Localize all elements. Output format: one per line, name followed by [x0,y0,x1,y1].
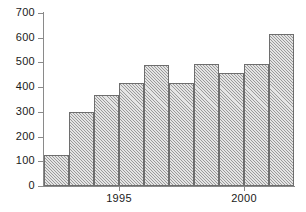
y-axis-tick-label: 600 [0,32,35,43]
y-axis-tick-label: 300 [0,106,35,117]
y-axis-tick [38,137,43,138]
y-axis-tick-label: 500 [0,56,35,67]
x-axis-line [43,186,295,187]
x-axis-tick-label: 2000 [214,192,274,204]
y-axis-tick [38,13,43,14]
bar [69,112,94,186]
bar [44,155,69,186]
y-axis-tick-label: 0 [0,180,35,191]
y-axis-tick-label: 400 [0,81,35,92]
bar [169,83,194,186]
x-axis-tick [119,187,120,191]
y-axis-tick-label: 100 [0,155,35,166]
bar [219,73,244,186]
bar [94,95,119,186]
y-axis-tick [38,112,43,113]
x-axis-tick [244,187,245,191]
bar-chart: 7006005004003002001000 19952000 [0,0,306,212]
bar [269,34,294,186]
y-axis-tick-label: 200 [0,131,35,142]
y-axis-tick [38,87,43,88]
bar-series [44,13,294,186]
bar [244,64,269,186]
y-axis-tick [38,62,43,63]
bar [144,65,169,186]
y-axis-tick [38,161,43,162]
y-axis-tick [38,38,43,39]
x-axis-tick-label: 1995 [89,192,149,204]
bar [119,83,144,186]
y-axis-tick-label: 700 [0,7,35,18]
bar [194,64,219,186]
